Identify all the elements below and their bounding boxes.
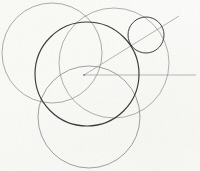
drawing-canvas: Four overlapping large circles with a sm… [0, 0, 200, 171]
angle-vertex-point [83, 74, 85, 76]
circle-construction-figure: Four overlapping large circles with a sm… [0, 0, 200, 171]
top-left-circle [2, 3, 102, 103]
small-circle [128, 17, 164, 53]
right-circle [59, 8, 169, 118]
main-circle [35, 22, 139, 126]
